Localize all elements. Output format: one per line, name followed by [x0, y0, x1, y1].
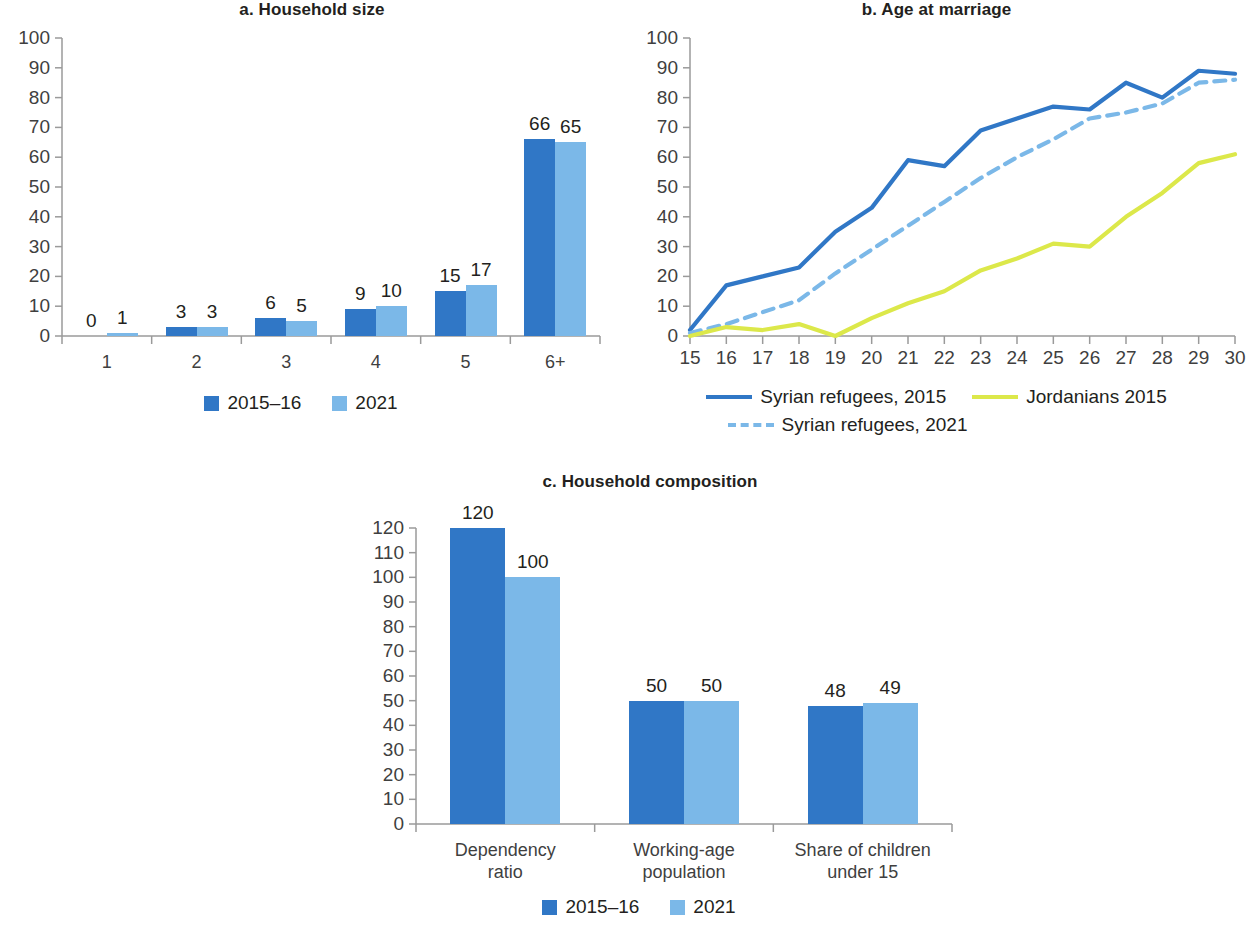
- legend-solid-line-icon: [706, 395, 752, 399]
- x-axis-tick-label: 30: [1224, 347, 1245, 369]
- legend-a: 2015–162021: [0, 392, 624, 414]
- x-axis-tick-label: 18: [788, 347, 809, 369]
- legend-item: 2021: [332, 392, 397, 414]
- y-axis-tick-label: 90: [624, 57, 678, 79]
- bar-value-label: 9: [355, 283, 366, 305]
- y-axis-tick-label: 110: [300, 542, 404, 564]
- x-axis-tick-label: 25: [1043, 347, 1064, 369]
- y-axis-tick-label: 10: [624, 295, 678, 317]
- y-axis-tick-label: 50: [0, 176, 50, 198]
- x-axis-tick-label: 16: [716, 347, 737, 369]
- legend-color-swatch-icon: [542, 900, 557, 915]
- y-axis-tick-label: 20: [624, 265, 678, 287]
- bar: [197, 327, 228, 336]
- chart-panel-household-composition: c. Household composition 010203040506070…: [300, 472, 1000, 932]
- panel-b-title: b. Age at marriage: [624, 0, 1249, 20]
- bar: [808, 706, 863, 824]
- bar: [863, 703, 918, 824]
- bar-value-label: 50: [701, 675, 722, 697]
- bar-value-label: 100: [517, 551, 549, 573]
- bar-value-label: 65: [560, 116, 581, 138]
- x-axis-category-label: Share of children under 15: [753, 840, 972, 884]
- bar: [450, 528, 505, 824]
- y-axis-tick-label: 0: [300, 813, 404, 835]
- bar: [435, 291, 466, 336]
- chart-panel-age-at-marriage: b. Age at marriage 010203040506070809010…: [624, 0, 1249, 450]
- legend-label: Syrian refugees, 2015: [760, 386, 946, 408]
- legend-color-swatch-icon: [204, 396, 219, 411]
- figure-root: a. Household size 0102030405060708090100…: [0, 0, 1249, 932]
- legend-label: 2021: [693, 896, 735, 918]
- y-axis-tick-label: 50: [624, 176, 678, 198]
- bar: [286, 321, 317, 336]
- bar-value-label: 50: [646, 675, 667, 697]
- bar-value-label: 6: [265, 292, 276, 314]
- x-axis-tick-label: 19: [825, 347, 846, 369]
- y-axis-tick-label: 90: [0, 57, 50, 79]
- bar: [505, 577, 560, 824]
- panel-c-title: c. Household composition: [300, 472, 1000, 492]
- y-axis-tick-label: 80: [300, 616, 404, 638]
- y-axis-tick-label: 60: [624, 146, 678, 168]
- legend-row-2: Syrian refugees, 2021: [624, 414, 1249, 436]
- bar-value-label: 1: [117, 307, 128, 329]
- x-axis-tick-label: 26: [1079, 347, 1100, 369]
- y-axis-tick-label: 70: [0, 116, 50, 138]
- plot-area-a: 0102030405060708090100036915661351017651…: [0, 30, 624, 350]
- x-axis-tick-label: 17: [752, 347, 773, 369]
- y-axis-tick-label: 50: [300, 690, 404, 712]
- y-axis-tick-label: 80: [624, 87, 678, 109]
- x-axis-tick-label: 20: [861, 347, 882, 369]
- bar-value-label: 10: [381, 280, 402, 302]
- legend-color-swatch-icon: [670, 900, 685, 915]
- y-axis-tick-label: 30: [300, 739, 404, 761]
- legend-item: 2015–16: [204, 392, 301, 414]
- y-axis-tick-label: 20: [300, 764, 404, 786]
- bar: [166, 327, 197, 336]
- legend-label: 2015–16: [227, 392, 301, 414]
- y-axis-tick-label: 100: [300, 566, 404, 588]
- bar: [345, 309, 376, 336]
- bar-value-label: 48: [825, 680, 846, 702]
- bar: [629, 701, 684, 824]
- y-axis-tick-label: 100: [0, 27, 50, 49]
- x-axis-tick-label: 22: [934, 347, 955, 369]
- x-axis-tick-label: 29: [1188, 347, 1209, 369]
- legend-item: 2021: [670, 896, 735, 918]
- bar: [107, 333, 138, 336]
- chart-panel-household-size: a. Household size 0102030405060708090100…: [0, 0, 624, 432]
- x-axis-tick-label: 24: [1006, 347, 1027, 369]
- line-series: [690, 80, 1235, 333]
- bar-value-label: 3: [176, 301, 187, 323]
- bar-value-label: 0: [86, 310, 97, 332]
- legend-dashed-line-icon: [728, 423, 774, 427]
- y-axis-tick-label: 30: [624, 236, 678, 258]
- plot-area-b: 0102030405060708090100151617181920212223…: [624, 30, 1249, 350]
- axis-lines: [624, 30, 1249, 350]
- y-axis-tick-label: 70: [624, 116, 678, 138]
- bar: [684, 701, 739, 824]
- bar: [255, 318, 286, 336]
- y-axis-tick-label: 100: [624, 27, 678, 49]
- legend-b: Syrian refugees, 2015Jordanians 2015Syri…: [624, 386, 1249, 436]
- y-axis-tick-label: 30: [0, 236, 50, 258]
- bar-value-label: 5: [296, 295, 307, 317]
- bar: [524, 139, 555, 336]
- bar: [376, 306, 407, 336]
- bar-value-label: 15: [439, 265, 460, 287]
- y-axis-tick-label: 60: [300, 665, 404, 687]
- y-axis-tick-label: 80: [0, 87, 50, 109]
- x-axis-tick-label: 23: [970, 347, 991, 369]
- bar: [466, 285, 497, 336]
- legend-solid-line-icon: [972, 395, 1018, 399]
- y-axis-tick-label: 90: [300, 591, 404, 613]
- legend-item: Syrian refugees, 2015: [706, 386, 946, 408]
- bar-value-label: 17: [470, 259, 491, 281]
- x-axis-tick-label: 21: [897, 347, 918, 369]
- bar-value-label: 66: [529, 113, 550, 135]
- legend-label: Syrian refugees, 2021: [782, 414, 968, 436]
- legend-c: 2015–162021: [300, 896, 1000, 918]
- legend-row-1: Syrian refugees, 2015Jordanians 2015: [624, 386, 1249, 408]
- legend-label: Jordanians 2015: [1026, 386, 1167, 408]
- y-axis-tick-label: 40: [624, 206, 678, 228]
